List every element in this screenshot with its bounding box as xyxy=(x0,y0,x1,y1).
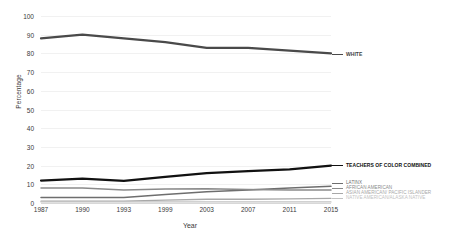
legend-swatch-native-american-alaska-native xyxy=(332,198,343,199)
y-tick-label: 40 xyxy=(0,125,34,132)
legend-swatch-african-american xyxy=(332,188,343,189)
y-tick-label: 20 xyxy=(0,162,34,169)
x-tick-label: 1990 xyxy=(62,206,102,213)
x-tick-label: 2003 xyxy=(187,206,227,213)
x-axis-title: Year xyxy=(0,222,380,229)
series-line xyxy=(41,166,331,181)
series-line xyxy=(41,35,331,54)
x-tick-label: 1993 xyxy=(104,206,144,213)
legend-swatch-latinx xyxy=(332,183,343,184)
y-tick-label: 60 xyxy=(0,87,34,94)
y-tick-label: 10 xyxy=(0,181,34,188)
y-tick-label: 70 xyxy=(0,69,34,76)
y-tick-label: 30 xyxy=(0,143,34,150)
y-tick-label: 80 xyxy=(0,50,34,57)
y-tick-label: 50 xyxy=(0,106,34,113)
plot-area xyxy=(41,16,331,203)
series-label-teachers-of-color-combined: TEACHERS OF COLOR COMBINED xyxy=(346,163,431,168)
y-tick-label: 90 xyxy=(0,31,34,38)
series-label-native-american-alaska-native: NATIVE AMERICAN/ALASKA NATIVE xyxy=(346,196,425,201)
x-tick-label: 2015 xyxy=(311,206,351,213)
line-chart: Percentage 0102030405060708090100 198719… xyxy=(0,0,451,237)
legend-swatch-teachers-of-color-combined xyxy=(332,165,343,167)
x-axis-line xyxy=(41,203,331,204)
x-tick-label: 2011 xyxy=(270,206,310,213)
x-tick-label: 1987 xyxy=(21,206,61,213)
series-lines xyxy=(41,16,331,203)
y-tick-label: 100 xyxy=(0,13,34,20)
series-label-white: WHITE xyxy=(346,52,362,57)
legend-swatch-asian-american-pacific-islander xyxy=(332,193,343,194)
series-line xyxy=(41,198,331,201)
legend-swatch-white xyxy=(332,54,343,56)
x-tick-label: 2007 xyxy=(228,206,268,213)
x-tick-label: 1999 xyxy=(145,206,185,213)
